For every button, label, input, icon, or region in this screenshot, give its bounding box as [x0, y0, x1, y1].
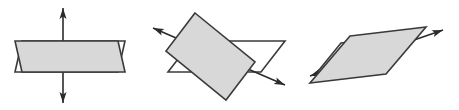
panel-tilted-axis-pair-of-planes: [310, 27, 443, 83]
panel-oblique-axis-pair-of-planes: [153, 13, 285, 100]
shaded-parallelogram: [166, 13, 255, 100]
shaded-parallelogram: [15, 41, 125, 72]
geometry-diagram: [0, 0, 459, 110]
shaded-parallelogram: [310, 27, 426, 83]
figure-container: [0, 0, 459, 110]
panel-vertical-axis-pair-of-planes: [15, 8, 125, 103]
